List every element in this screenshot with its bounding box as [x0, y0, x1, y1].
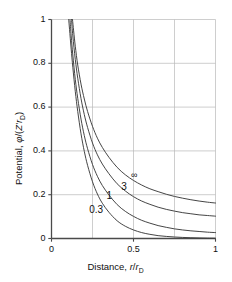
curve-infinity [72, 20, 215, 204]
curve-label-3: 3 [121, 182, 127, 192]
y-axis-tick-label: 0.6 [33, 102, 46, 111]
y-axis-tick-label: 1 [40, 15, 45, 24]
y-axis-title-subscript: D [19, 115, 26, 120]
potential-vs-distance-chart: 00.20.40.60.81 00.51 0.313∞ Potential, φ… [0, 0, 231, 282]
y-axis-tick-label: 0.2 [33, 190, 46, 199]
y-axis-tick-label: 0.8 [33, 58, 46, 67]
y-axis-title-phi: φ [13, 137, 24, 143]
y-axis-tick-label: 0 [40, 234, 45, 243]
y-axis-title-prefix: Potential, [13, 143, 24, 185]
curve-label-1: 1 [106, 191, 112, 201]
y-axis-title-close: ) [13, 112, 24, 115]
curve-label-0.3: 0.3 [89, 205, 103, 215]
x-axis-title-subscript: D [139, 267, 144, 274]
curve-label-infinity: ∞ [131, 171, 137, 180]
x-axis-title-prefix: Distance, [87, 261, 129, 272]
x-axis-title: Distance, r/rD [0, 262, 231, 275]
x-axis-tick-label: 0 [32, 245, 72, 254]
y-axis-title-open: /( [13, 131, 24, 137]
curve-3 [72, 20, 216, 217]
y-axis-title-r: r [13, 120, 24, 123]
y-axis-title-z: Z' [13, 123, 24, 131]
axis-tickmarks [48, 20, 215, 242]
y-axis-tick-label: 0.4 [33, 146, 46, 155]
y-axis-title: Potential, φ/(Z'rD) [14, 112, 27, 185]
x-axis-tick-label: 0.5 [114, 245, 154, 254]
x-axis-tick-label: 1 [196, 245, 232, 254]
plot-area-svg [0, 0, 231, 282]
